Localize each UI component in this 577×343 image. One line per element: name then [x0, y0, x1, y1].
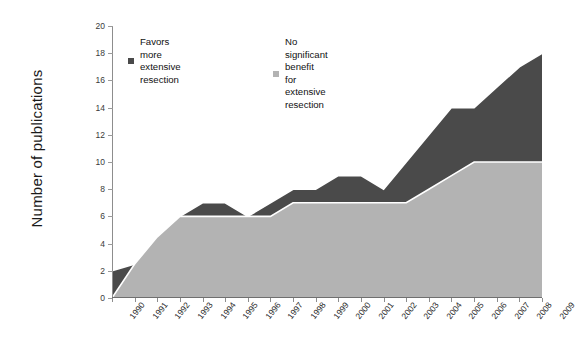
y-tick-mark — [108, 271, 113, 272]
x-tick-label: 1994 — [218, 300, 238, 321]
x-tick-label: 2003 — [421, 300, 441, 321]
x-tick-label: 2005 — [467, 300, 487, 321]
x-tick-label: 1991 — [150, 300, 170, 321]
x-tick-label: 1998 — [308, 300, 328, 321]
y-tick-mark — [108, 80, 113, 81]
x-tick-label: 2000 — [354, 300, 374, 321]
y-tick-mark — [108, 216, 113, 217]
y-tick-mark — [108, 189, 113, 190]
y-tick-mark — [108, 108, 113, 109]
x-axis-labels: 1990199119921993199419951996199719981999… — [112, 300, 542, 343]
x-tick-label: 1990 — [127, 300, 147, 321]
x-tick-label: 2008 — [535, 300, 555, 321]
y-tick-mark — [108, 244, 113, 245]
x-tick-label: 2004 — [444, 300, 464, 321]
x-tick-label: 1999 — [331, 300, 351, 321]
legend-label-dark: Favors more extensive resection — [140, 36, 181, 86]
legend-item-favors-more-extensive-resection: Favors more extensive resection — [128, 36, 181, 86]
y-axis-title: Number of publications — [28, 39, 45, 259]
x-tick-label: 2006 — [489, 300, 509, 321]
y-tick-mark — [108, 26, 113, 27]
legend-label-light: No significant benefit for extensive res… — [285, 36, 328, 111]
y-tick-mark — [108, 135, 113, 136]
y-tick-mark — [108, 53, 113, 54]
x-tick-label: 2009 — [557, 300, 577, 321]
x-tick-label: 1997 — [286, 300, 306, 321]
x-tick-mark — [542, 298, 543, 302]
x-tick-label: 2007 — [512, 300, 532, 321]
x-tick-label: 1996 — [263, 300, 283, 321]
x-axis-line — [112, 297, 542, 298]
x-tick-label: 2002 — [399, 300, 419, 321]
legend-item-no-significant-benefit: No significant benefit for extensive res… — [273, 36, 328, 111]
legend-swatch-light-icon — [273, 71, 279, 77]
x-tick-label: 1995 — [240, 300, 260, 321]
y-tick-mark — [108, 162, 113, 163]
x-tick-label: 2001 — [376, 300, 396, 321]
x-tick-label: 1992 — [173, 300, 193, 321]
legend-swatch-dark-icon — [128, 58, 134, 64]
x-tick-label: 1993 — [195, 300, 215, 321]
